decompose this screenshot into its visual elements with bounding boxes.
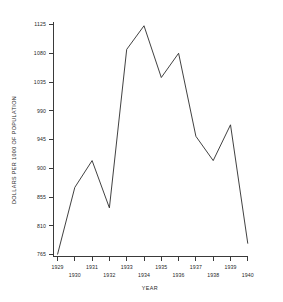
x-tick-label-1932: 1932 xyxy=(103,272,115,278)
x-axis-title: YEAR xyxy=(142,285,158,291)
x-tick-label-1937: 1937 xyxy=(190,264,202,270)
x-axis-tick-labels: 1929 1930 1931 1932 1933 1934 1935 1936 … xyxy=(51,264,253,278)
x-tick-label-1931: 1931 xyxy=(86,264,98,270)
y-tick-label-945: 945 xyxy=(37,136,46,142)
chart-plot-area: 1125 1080 1035 990 945 900 855 810 765 xyxy=(0,0,283,302)
y-tick-label-765: 765 xyxy=(37,251,46,257)
x-tick-label-1939: 1939 xyxy=(224,264,236,270)
x-tick-label-1934: 1934 xyxy=(138,272,150,278)
line-chart-figure: 1125 1080 1035 990 945 900 855 810 765 xyxy=(0,0,283,302)
x-axis-ticks xyxy=(58,257,248,262)
y-tick-label-855: 855 xyxy=(37,194,46,200)
data-series-line xyxy=(58,26,248,255)
y-axis-ticks xyxy=(49,25,54,255)
x-tick-label-1930: 1930 xyxy=(69,272,81,278)
y-tick-label-900: 900 xyxy=(37,165,46,171)
y-axis-title: DOLLARS PER 1000 OF POPULATION xyxy=(11,96,17,204)
y-tick-label-810: 810 xyxy=(37,223,46,229)
y-axis-tick-labels: 1125 1080 1035 990 945 900 855 810 765 xyxy=(34,21,46,257)
x-tick-label-1933: 1933 xyxy=(121,264,133,270)
y-tick-label-1080: 1080 xyxy=(34,50,46,56)
x-tick-label-1936: 1936 xyxy=(173,272,185,278)
x-tick-label-1929: 1929 xyxy=(51,264,63,270)
y-tick-label-990: 990 xyxy=(37,108,46,114)
x-tick-label-1940: 1940 xyxy=(242,272,254,278)
y-tick-label-1125: 1125 xyxy=(34,21,46,27)
y-tick-label-1035: 1035 xyxy=(34,79,46,85)
x-tick-label-1935: 1935 xyxy=(155,264,167,270)
x-tick-label-1938: 1938 xyxy=(207,272,219,278)
